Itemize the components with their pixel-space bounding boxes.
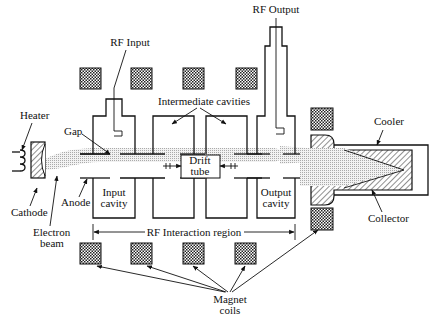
rf-input-label: RF Input (110, 36, 149, 48)
anode-label: Anode (61, 196, 90, 208)
heater-icon (12, 150, 25, 171)
cathode (31, 142, 45, 178)
rf-interaction-region-label: RF Interaction region (147, 226, 242, 238)
collector-label: Collector (368, 212, 409, 224)
magnet-coil-pointers (97, 230, 318, 292)
heater-label: Heater (20, 109, 50, 121)
rf-interaction-region-dimension: RF Interaction region (93, 224, 295, 240)
input-cavity-label-2: cavity (101, 197, 128, 209)
gap-label: Gap (64, 125, 83, 137)
klystron-diagram: Drift tube (0, 0, 438, 325)
cathode-label: Cathode (11, 206, 48, 218)
rf-output-label: RF Output (253, 3, 300, 15)
intermediate-cavities-label: Intermediate cavities (158, 95, 250, 107)
cooler-label: Cooler (374, 115, 404, 127)
output-cavity-label-2: cavity (263, 197, 290, 209)
magnet-coils-label-2: coils (220, 304, 241, 316)
electron-beam-label-2: beam (40, 237, 64, 249)
drift-tube-label-2: tube (191, 165, 210, 177)
